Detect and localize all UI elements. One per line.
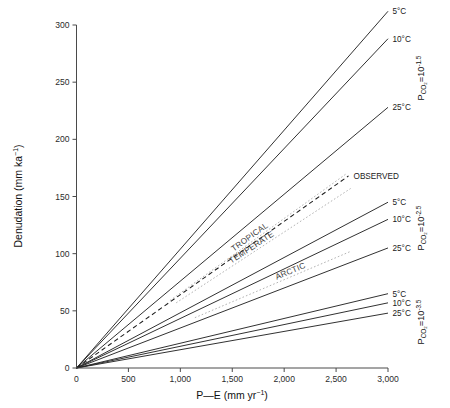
climate-zone-label-arctic: ARCTIC: [274, 261, 307, 282]
series-label-pco2-2-25C: 25°C: [393, 244, 411, 253]
x-tick-label: 3,000: [377, 374, 399, 384]
model-line-pco2-2-10C: [77, 219, 389, 368]
series-label-pco2-3-10C: 10°C: [393, 299, 411, 308]
x-tick-label: 1,500: [221, 374, 243, 384]
y-axis-ticks: 050100150200250300: [55, 20, 76, 373]
group-label-pco2-2: PCO₂=10-2.5: [415, 205, 428, 250]
model-line-pco2-1-25C: [77, 107, 389, 368]
chart-canvas: 050100150200250300 05001,0001,5002,0002,…: [0, 0, 450, 408]
series-label-pco2-2-10C: 10°C: [393, 215, 411, 224]
denudation-chart-figure: 050100150200250300 05001,0001,5002,0002,…: [0, 0, 450, 408]
group-label-pco2-3: PCO₂=10-3.5: [415, 299, 428, 344]
y-tick-label: 250: [55, 77, 70, 87]
series-label-pco2-1-10C: 10°C: [393, 35, 411, 44]
x-axis-ticks: 05001,0001,5002,0002,5003,000: [74, 368, 399, 384]
climate-zone-line-temperate: [176, 188, 350, 302]
model-line-pco2-1-10C: [77, 39, 389, 368]
x-tick-label: 500: [121, 374, 136, 384]
plot-series-group: [77, 11, 389, 368]
y-tick-label: 150: [55, 192, 70, 202]
model-line-pco2-1-5C: [77, 11, 389, 368]
y-tick-label: 50: [60, 306, 70, 316]
y-tick-label: 100: [55, 249, 70, 259]
y-tick-label: 0: [65, 363, 70, 373]
x-tick-label: 2,000: [273, 374, 295, 384]
series-label-group: 5°C10°C25°C5°C10°C25°C5°C10°C25°COBSERVE…: [354, 7, 411, 318]
y-axis-title: Denudation (mm ka−1): [12, 144, 24, 247]
group-label-group: PCO₂=10-1.5PCO₂=10-2.5PCO₂=10-3.5: [415, 55, 428, 344]
series-label-pco2-1-25C: 25°C: [393, 103, 411, 112]
observed-label: OBSERVED: [354, 172, 399, 181]
axes-group: 050100150200250300 05001,0001,5002,0002,…: [55, 20, 399, 384]
model-line-pco2-3-5C: [77, 294, 389, 368]
series-label-pco2-3-5C: 5°C: [393, 290, 407, 299]
x-tick-label: 1,000: [170, 374, 192, 384]
series-label-pco2-1-5C: 5°C: [393, 7, 407, 16]
model-line-pco2-2-5C: [77, 202, 389, 368]
series-label-pco2-3-25C: 25°C: [393, 309, 411, 318]
group-label-pco2-1: PCO₂=10-1.5: [415, 55, 428, 100]
y-tick-label: 300: [55, 20, 70, 30]
axis-title-group: P—E (mm yr−1) Denudation (mm ka−1): [12, 144, 268, 401]
model-line-pco2-3-25C: [77, 313, 389, 368]
x-tick-label: 2,500: [325, 374, 347, 384]
x-tick-label: 0: [74, 374, 79, 384]
y-tick-label: 200: [55, 134, 70, 144]
series-label-pco2-2-5C: 5°C: [393, 198, 407, 207]
x-axis-title: P—E (mm yr−1): [196, 389, 268, 401]
